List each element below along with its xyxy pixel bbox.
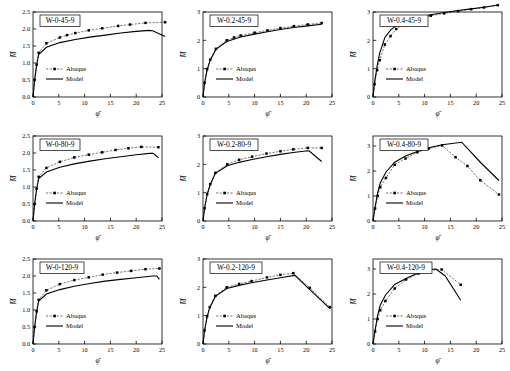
legend-label-model: Model <box>236 75 253 82</box>
legend-marker-abaqus <box>393 191 396 194</box>
x-axis-label: φ̄ <box>265 356 271 365</box>
x-tick-label: 0 <box>201 346 204 353</box>
chart-panel: 05101520250123φ̄M̄W-0.2-80-9AbaqusModel <box>170 124 340 248</box>
chart-panel: 05101520250123φ̄M̄W-0.4-120-9AbaqusModel <box>340 247 510 371</box>
data-point-marker <box>479 179 481 181</box>
x-tick-label: 0 <box>31 346 34 353</box>
x-tick-label: 20 <box>473 346 479 353</box>
y-tick-label: 2 <box>367 291 370 298</box>
data-point-marker <box>251 155 253 157</box>
data-point-marker <box>87 276 89 278</box>
y-tick-label: 0 <box>197 217 200 224</box>
panel-title: W-0-45-9 <box>46 16 75 25</box>
y-axis-label: M̄ <box>349 298 358 306</box>
x-tick-label: 15 <box>277 346 283 353</box>
y-tick-label: 0.0 <box>22 341 30 348</box>
x-tick-label: 5 <box>227 346 230 353</box>
y-tick-label: 1 <box>367 65 370 72</box>
data-point-marker <box>459 284 461 286</box>
x-tick-label: 5 <box>397 99 400 106</box>
series-line-abaqus <box>33 147 158 221</box>
data-point-marker <box>74 32 76 34</box>
data-point-marker <box>320 146 322 148</box>
legend-marker-abaqus <box>53 315 56 318</box>
x-tick-label: 15 <box>107 99 113 106</box>
chart-panel: 05101520250123φ̄M̄W-0.4-80-9AbaqusModel <box>340 124 510 248</box>
y-tick-label: 3 <box>197 256 200 263</box>
data-point-marker <box>101 151 103 153</box>
x-tick-label: 5 <box>227 223 230 230</box>
data-point-marker <box>238 158 240 160</box>
y-tick-label: 0 <box>367 341 370 348</box>
y-tick-label: 1.0 <box>22 183 30 190</box>
x-tick-label: 15 <box>107 346 113 353</box>
panel-title: W-0.2-45-9 <box>217 16 252 25</box>
data-point-marker <box>45 166 47 168</box>
y-axis-label: M̄ <box>179 298 188 306</box>
series-line-abaqus <box>203 23 322 97</box>
x-tick-label: 20 <box>303 346 309 353</box>
data-point-marker <box>292 148 294 150</box>
x-tick-label: 10 <box>422 346 428 353</box>
data-point-marker <box>466 164 468 166</box>
y-tick-label: 2.5 <box>22 132 30 139</box>
series-line-model <box>373 269 461 344</box>
x-tick-label: 10 <box>252 99 258 106</box>
legend-label-model: Model <box>236 199 253 206</box>
y-tick-label: 2.5 <box>22 256 30 263</box>
data-point-marker <box>144 22 146 24</box>
data-point-marker <box>140 145 142 147</box>
data-point-marker <box>454 156 456 158</box>
data-point-marker <box>45 289 47 291</box>
data-point-marker <box>265 152 267 154</box>
x-tick-label: 10 <box>252 346 258 353</box>
data-point-marker <box>404 157 406 159</box>
y-axis-label: M̄ <box>179 51 188 59</box>
data-point-marker <box>101 27 103 29</box>
x-tick-label: 5 <box>57 223 60 230</box>
data-point-marker <box>59 283 61 285</box>
panel-title: W-0.2-80-9 <box>217 140 252 149</box>
x-tick-label: 10 <box>82 223 88 230</box>
y-tick-label: 1.5 <box>22 290 30 297</box>
y-axis-label: M̄ <box>9 174 18 182</box>
legend-marker-abaqus <box>223 191 226 194</box>
panel-title: W-0.4-120-9 <box>387 264 425 273</box>
x-tick-label: 20 <box>303 99 309 106</box>
x-tick-label: 10 <box>82 99 88 106</box>
x-axis-label: φ̄ <box>95 356 101 365</box>
x-axis-label: φ̄ <box>95 233 101 242</box>
panel-title: W-0-80-9 <box>46 140 75 149</box>
panel-title: W-0-120-9 <box>46 264 79 273</box>
chart-panel: 05101520250123φ̄M̄W-0.2-120-9AbaqusModel <box>170 247 340 371</box>
x-tick-label: 20 <box>133 223 139 230</box>
x-tick-label: 25 <box>329 223 335 230</box>
y-tick-label: 2 <box>197 37 200 44</box>
x-tick-label: 25 <box>329 346 335 353</box>
y-tick-label: 1.5 <box>22 166 30 173</box>
x-tick-label: 0 <box>371 223 374 230</box>
series-line-model <box>33 153 158 221</box>
y-tick-label: 0.0 <box>22 93 30 100</box>
x-tick-label: 25 <box>499 346 505 353</box>
y-tick-label: 2 <box>367 167 370 174</box>
y-tick-label: 2.0 <box>22 149 30 156</box>
legend-label-model: Model <box>406 199 423 206</box>
y-tick-label: 2.0 <box>22 25 30 32</box>
y-tick-label: 1 <box>197 312 200 319</box>
data-point-marker <box>292 272 294 274</box>
data-point-marker <box>384 300 386 302</box>
legend-marker-abaqus <box>393 315 396 318</box>
x-tick-label: 20 <box>133 99 139 106</box>
y-tick-label: 0 <box>197 93 200 100</box>
y-tick-label: 0.5 <box>22 200 30 207</box>
y-tick-label: 1 <box>197 65 200 72</box>
y-axis-label: M̄ <box>9 298 18 306</box>
y-tick-label: 3 <box>197 8 200 15</box>
data-point-marker <box>266 276 268 278</box>
y-axis-label: M̄ <box>9 51 18 59</box>
data-point-marker <box>59 160 61 162</box>
data-point-marker <box>157 146 159 148</box>
data-point-marker <box>144 268 146 270</box>
legend-label-model: Model <box>66 75 83 82</box>
